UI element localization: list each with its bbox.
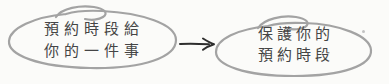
right-bubble-line2: 預約時段 [228, 45, 364, 66]
right-bubble-line1: 保護你的 [228, 24, 364, 45]
ink-speck [362, 30, 365, 33]
arrow-shaft [180, 44, 209, 45]
diagram-canvas: 預約時段給 你的一件事 保護你的 預約時段 [0, 0, 389, 84]
left-bubble-line2: 你的一件事 [24, 40, 164, 62]
left-bubble-text: 預約時段給 你的一件事 [24, 18, 164, 62]
left-bubble-line1: 預約時段給 [24, 18, 164, 40]
right-bubble-text: 保護你的 預約時段 [228, 24, 364, 66]
